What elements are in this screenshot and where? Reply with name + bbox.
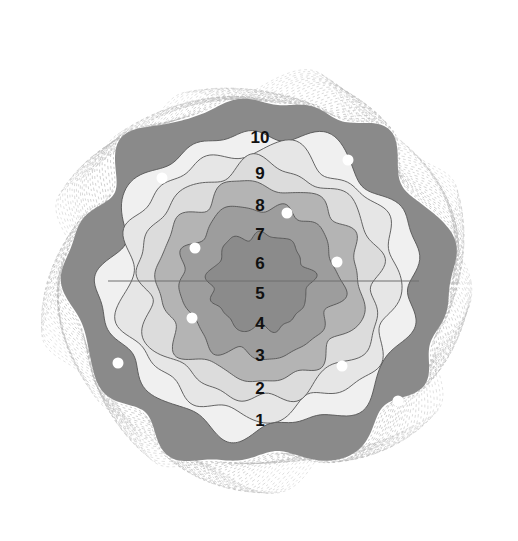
- ring-label-8: 8: [255, 196, 264, 215]
- ring-label-10: 10: [251, 128, 270, 147]
- impact-marker: [282, 208, 293, 219]
- contour-bands-group: [61, 99, 457, 461]
- ring-label-3: 3: [255, 346, 264, 365]
- impact-marker: [337, 361, 348, 372]
- impact-marker: [343, 155, 354, 166]
- ring-label-1: 1: [255, 411, 264, 430]
- ring-label-7: 7: [255, 225, 264, 244]
- ring-label-6: 6: [255, 254, 264, 273]
- ring-label-4: 4: [255, 314, 265, 333]
- ring-label-5: 5: [255, 284, 264, 303]
- impact-marker: [190, 243, 201, 254]
- ring-label-9: 9: [255, 164, 264, 183]
- impact-marker: [187, 313, 198, 324]
- contour-target-figure: 10987654321: [0, 0, 518, 541]
- contour-target-svg: 10987654321: [0, 0, 518, 541]
- impact-marker: [332, 257, 343, 268]
- impact-marker: [113, 358, 124, 369]
- ring-label-2: 2: [255, 379, 264, 398]
- impact-marker: [393, 396, 404, 407]
- impact-marker: [157, 173, 168, 184]
